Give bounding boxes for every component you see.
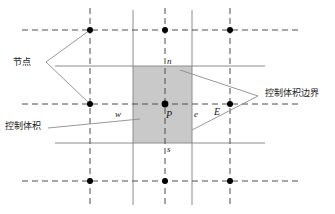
grid-diagram-svg <box>0 0 335 214</box>
point-label-center-p: P <box>166 110 172 120</box>
node-dot-east-e <box>227 101 233 107</box>
node-dot <box>227 27 233 33</box>
node-dot <box>227 178 233 184</box>
figure-canvas: 节点 控制体积 控制体积边界 n s w e P E <box>0 0 335 214</box>
node-dot <box>162 178 168 184</box>
node-dot-center-p <box>162 101 169 108</box>
node-dot <box>87 101 93 107</box>
node-dot <box>162 27 168 33</box>
node-dot <box>87 178 93 184</box>
point-label-east: e <box>194 110 198 119</box>
point-label-north: n <box>167 57 172 66</box>
node-dot <box>87 27 93 33</box>
point-label-east-node-e: E <box>214 107 220 117</box>
cv-boundary-annotation-label: 控制体积边界 <box>265 89 319 98</box>
point-label-south: s <box>167 145 171 154</box>
control-volume-leader-line <box>48 119 140 128</box>
node-leader-line <box>46 30 90 104</box>
node-annotation-label: 节点 <box>13 58 31 67</box>
control-volume-annotation-label: 控制体积 <box>5 122 41 131</box>
point-label-west: w <box>115 110 121 119</box>
